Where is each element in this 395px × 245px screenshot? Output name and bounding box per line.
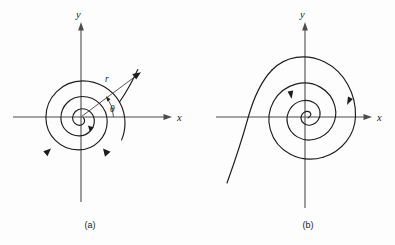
x-axis-label-b: x (376, 112, 382, 123)
y-axis-label-a: y (75, 9, 81, 20)
panel-a: y x r θ (a) (0, 0, 198, 245)
panel-a-axes (13, 22, 172, 202)
spiral-outer-loop-b (272, 57, 356, 157)
theta-label-a: θ (110, 104, 115, 114)
spiral-tail-b (227, 70, 272, 183)
y-axis-arrowhead-a (78, 22, 84, 31)
panel-b-axes (216, 22, 372, 208)
spiral-path-b (269, 83, 336, 159)
flow-arrowhead-b-1 (288, 91, 294, 99)
panel-b: y x (b) (198, 0, 395, 245)
x-axis-label-a: x (176, 112, 182, 123)
figure-root: y x r θ (a) y (0, 0, 395, 245)
y-axis-label-b: y (299, 9, 305, 20)
radius-label-a: r (105, 74, 109, 84)
caption-a: (a) (85, 220, 96, 230)
spiral-curve-a (46, 70, 138, 150)
flow-arrowhead-b-2 (347, 97, 353, 105)
x-axis-arrowhead-a (164, 114, 173, 120)
flow-arrowhead-a-1 (43, 148, 51, 156)
spiral-curve-b (227, 57, 356, 183)
flow-arrowhead-a-2 (103, 149, 111, 157)
x-axis-arrowhead-b (364, 114, 373, 120)
caption-b: (b) (303, 220, 314, 230)
spiral-outer-arc-a (120, 102, 126, 140)
y-axis-arrowhead-b (302, 22, 308, 31)
